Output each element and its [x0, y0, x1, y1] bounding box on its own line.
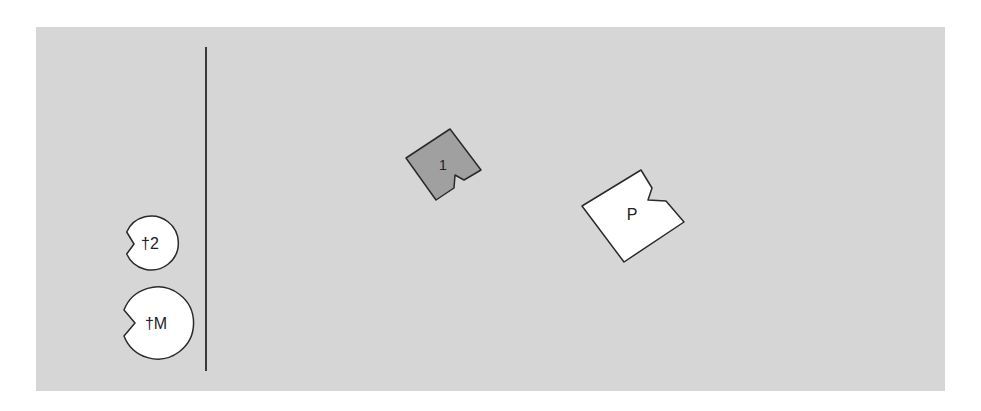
piece-p-label: P [627, 206, 638, 224]
marker-m-label: †M [145, 315, 167, 333]
marker-2-label: †2 [141, 235, 159, 253]
piece-1-label: 1 [439, 157, 447, 173]
diagram-shapes [0, 0, 981, 411]
